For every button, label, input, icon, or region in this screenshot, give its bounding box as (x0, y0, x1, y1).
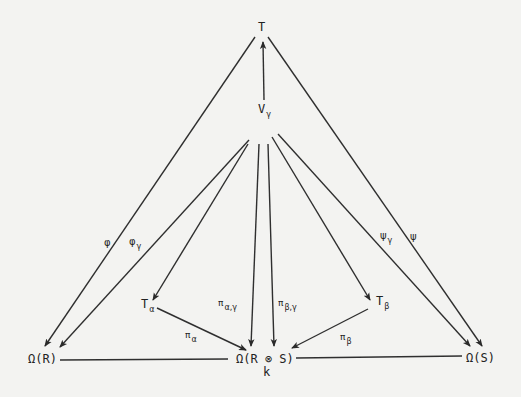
node-t: T (258, 22, 265, 33)
label-pi-beta-gamma: πβ,γ (278, 298, 297, 309)
label-pi-alpha: πα (185, 330, 197, 341)
label-phi-gamma-base: φ (129, 236, 136, 247)
arrow-vgamma-to-talpha (153, 144, 248, 300)
node-omega-rs-label: Ω(R ⊗ S) (236, 352, 294, 366)
node-omega-r: Ω(R) (28, 354, 57, 365)
label-psi: ψ (410, 231, 417, 242)
node-omega-rs-k: k (263, 365, 270, 379)
label-psi-gamma: ψγ (380, 230, 392, 242)
label-pi-alpha-gamma-sub: α,γ (224, 303, 237, 312)
node-t-label: T (258, 20, 265, 34)
node-v-gamma-sub: γ (266, 110, 271, 119)
arrow-pi-beta (292, 309, 368, 348)
label-pi-beta-gamma-base: π (278, 298, 283, 308)
node-t-beta-sub: β (384, 302, 389, 311)
label-pi-alpha-gamma: πα,γ (218, 298, 237, 309)
label-phi-gamma-sub: γ (137, 242, 142, 251)
node-v-gamma: Vγ (258, 104, 271, 116)
arrow-pi-alpha-gamma (251, 144, 259, 346)
label-pi-beta-gamma-sub: β,γ (284, 303, 296, 312)
label-phi-gamma: φγ (129, 236, 141, 248)
label-psi-base: ψ (410, 231, 417, 242)
arrow-psi-gamma (278, 134, 470, 346)
arrow-psi (268, 37, 482, 346)
line-omega-r-to-omega-rs (60, 359, 228, 360)
node-v-gamma-base: V (258, 102, 265, 116)
label-pi-beta: πβ (340, 332, 352, 343)
arrow-pi-beta-gamma (268, 144, 274, 346)
node-omega-rs: Ω(R ⊗ S) (236, 354, 294, 365)
label-pi-alpha-gamma-base: π (218, 298, 223, 308)
node-t-beta: Tβ (376, 296, 389, 308)
label-psi-gamma-base: ψ (380, 230, 387, 241)
node-omega-rs-subscript-k: k (263, 367, 270, 378)
node-omega-r-label: Ω(R) (28, 352, 57, 366)
label-pi-alpha-base: π (185, 330, 190, 340)
node-t-beta-base: T (376, 294, 383, 308)
node-t-alpha-base: T (141, 297, 148, 311)
node-omega-s: Ω(S) (466, 353, 495, 364)
line-omega-rs-to-omega-s (296, 356, 462, 358)
arrow-phi-gamma (60, 140, 249, 347)
commutative-diagram (0, 0, 521, 397)
label-pi-beta-base: π (340, 332, 345, 342)
arrow-vgamma-to-t (263, 42, 264, 100)
label-phi: φ (104, 237, 111, 248)
node-t-alpha: Tα (141, 299, 155, 311)
label-phi-base: φ (104, 237, 111, 248)
node-omega-s-label: Ω(S) (466, 351, 495, 365)
arrow-pi-alpha (157, 308, 246, 350)
node-t-alpha-sub: α (149, 305, 154, 314)
label-pi-alpha-sub: α (191, 335, 196, 344)
label-psi-gamma-sub: γ (388, 236, 393, 245)
label-pi-beta-sub: β (346, 337, 351, 346)
